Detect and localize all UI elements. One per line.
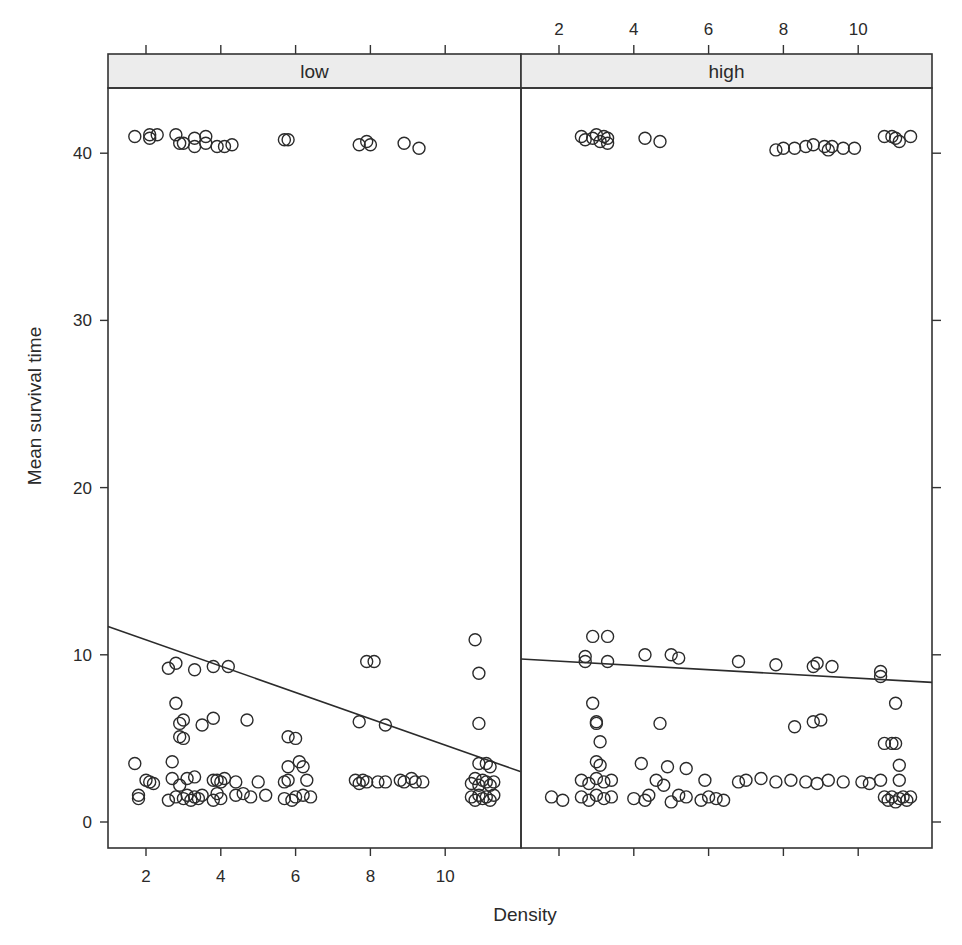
data-point — [207, 712, 219, 724]
data-point — [278, 793, 290, 805]
data-point — [406, 773, 418, 785]
data-point — [575, 791, 587, 803]
lattice-scatter-chart: low high 224466881010010203040 Density M… — [0, 0, 962, 945]
data-point — [800, 776, 812, 788]
strip-label-high: high — [709, 61, 745, 82]
data-point — [770, 144, 782, 156]
panel-frame-high — [521, 88, 932, 848]
y-tick-label: 30 — [73, 311, 92, 330]
data-point — [260, 789, 272, 801]
data-point — [654, 136, 666, 148]
data-point — [893, 774, 905, 786]
data-point — [237, 788, 249, 800]
data-point — [665, 796, 677, 808]
data-point — [605, 791, 617, 803]
data-point — [837, 776, 849, 788]
y-tick-label: 10 — [73, 646, 92, 665]
data-point — [826, 661, 838, 673]
data-point — [807, 716, 819, 728]
x-axis-title: Density — [493, 904, 557, 925]
data-point — [811, 657, 823, 669]
data-point — [635, 758, 647, 770]
data-point — [219, 141, 231, 153]
points-low — [129, 129, 500, 807]
data-point — [353, 716, 365, 728]
x-tick-label: 10 — [436, 867, 455, 886]
data-point — [639, 132, 651, 144]
data-point — [170, 697, 182, 709]
data-point — [710, 793, 722, 805]
panel-frame-low — [108, 88, 521, 848]
data-point — [699, 774, 711, 786]
data-point — [590, 756, 602, 768]
data-point — [639, 649, 651, 661]
panel-high: high — [521, 54, 932, 848]
data-point — [189, 771, 201, 783]
data-point — [602, 656, 614, 668]
y-tick-label: 40 — [73, 144, 92, 163]
data-point — [305, 791, 317, 803]
data-point — [207, 794, 219, 806]
data-point — [226, 139, 238, 151]
data-point — [807, 661, 819, 673]
data-point — [473, 717, 485, 729]
data-point — [177, 793, 189, 805]
data-point — [789, 142, 801, 154]
data-point — [290, 791, 302, 803]
data-point — [875, 774, 887, 786]
data-point — [368, 656, 380, 668]
data-point — [196, 719, 208, 731]
data-point — [673, 652, 685, 664]
data-point — [189, 141, 201, 153]
data-point — [822, 774, 834, 786]
data-point — [733, 776, 745, 788]
data-point — [807, 139, 819, 151]
data-point — [890, 697, 902, 709]
data-point — [162, 794, 174, 806]
x-tick-label: 8 — [366, 867, 375, 886]
data-point — [815, 714, 827, 726]
data-point — [192, 793, 204, 805]
data-point — [177, 732, 189, 744]
data-point — [665, 649, 677, 661]
data-point — [413, 142, 425, 154]
data-point — [301, 774, 313, 786]
data-point — [282, 774, 294, 786]
x-tick-label: 4 — [216, 867, 225, 886]
data-point — [282, 731, 294, 743]
data-point — [546, 791, 558, 803]
data-point — [849, 142, 861, 154]
data-point — [587, 697, 599, 709]
x-tick-label: 6 — [704, 20, 713, 39]
data-point — [770, 659, 782, 671]
data-point — [364, 139, 376, 151]
panel-low: low — [108, 54, 521, 848]
data-point — [811, 778, 823, 790]
strip-label-low: low — [300, 61, 329, 82]
data-point — [219, 773, 231, 785]
data-point — [800, 141, 812, 153]
x-tick-label: 10 — [849, 20, 868, 39]
data-point — [211, 141, 223, 153]
data-point — [129, 131, 141, 143]
data-point — [680, 791, 692, 803]
data-point — [602, 630, 614, 642]
y-tick-label: 0 — [83, 813, 92, 832]
data-point — [290, 732, 302, 744]
data-point — [594, 759, 606, 771]
x-tick-label: 8 — [779, 20, 788, 39]
data-point — [598, 793, 610, 805]
data-point — [587, 630, 599, 642]
data-point — [465, 791, 477, 803]
data-point — [480, 791, 492, 803]
data-point — [361, 656, 373, 668]
data-point — [733, 656, 745, 668]
data-point — [662, 761, 674, 773]
data-point — [170, 791, 182, 803]
data-point — [654, 717, 666, 729]
data-point — [703, 791, 715, 803]
data-point — [777, 142, 789, 154]
data-point — [557, 794, 569, 806]
data-point — [605, 774, 617, 786]
data-point — [417, 776, 429, 788]
